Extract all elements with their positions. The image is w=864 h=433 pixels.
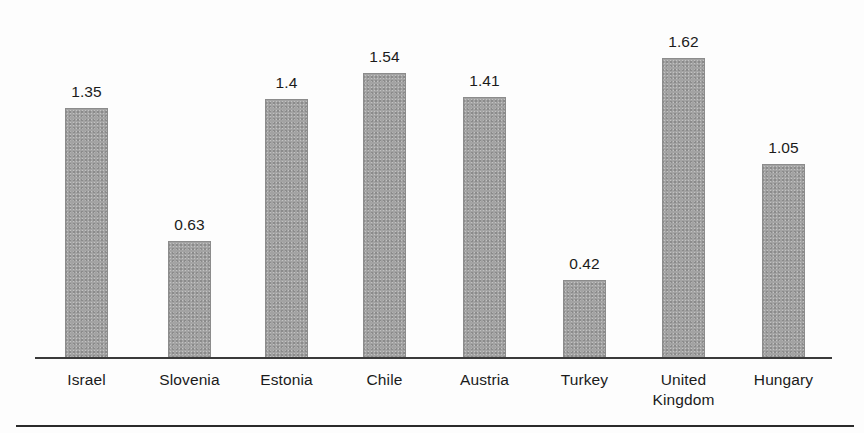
- bar-value-label: 1.41: [445, 72, 525, 90]
- x-axis-category-label: United Kingdom: [629, 370, 739, 410]
- plot-area: 1.35Israel0.63Slovenia1.4Estonia1.54Chil…: [0, 0, 864, 433]
- x-axis-category-label: Slovenia: [135, 370, 245, 390]
- bar: [65, 108, 108, 358]
- bar: [463, 97, 506, 358]
- x-axis-category-label: Hungary: [729, 370, 839, 390]
- bar-value-label: 1.05: [744, 139, 824, 157]
- bar: [762, 164, 805, 358]
- bar: [662, 58, 705, 358]
- bar-value-label: 0.63: [150, 216, 230, 234]
- bar: [563, 280, 606, 358]
- x-axis-category-label: Israel: [32, 370, 142, 390]
- x-axis-category-label: Estonia: [232, 370, 342, 390]
- x-axis-line: [35, 357, 832, 359]
- x-axis-category-label: Turkey: [530, 370, 640, 390]
- bar-value-label: 1.35: [47, 83, 127, 101]
- bar-value-label: 1.62: [644, 33, 724, 51]
- bar-value-label: 1.4: [247, 74, 327, 92]
- bar-value-label: 0.42: [545, 255, 625, 273]
- bar-chart-figure: 1.35Israel0.63Slovenia1.4Estonia1.54Chil…: [0, 0, 864, 433]
- x-axis-category-label: Chile: [330, 370, 440, 390]
- bar: [265, 99, 308, 358]
- bar: [168, 241, 211, 358]
- bar: [363, 73, 406, 358]
- bottom-rule-divider: [16, 425, 854, 427]
- bar-value-label: 1.54: [345, 48, 425, 66]
- x-axis-category-label: Austria: [430, 370, 540, 390]
